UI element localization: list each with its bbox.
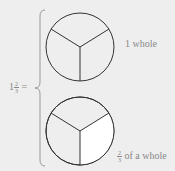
equals-sign: = xyxy=(22,81,28,92)
two-thirds-label: 23 of a whole xyxy=(117,150,167,163)
fraction: 23 xyxy=(14,81,19,94)
label-numerator: 2 xyxy=(117,150,122,157)
label-fraction: 23 xyxy=(117,150,122,163)
numerator: 2 xyxy=(14,81,19,88)
label-text: of a whole xyxy=(125,150,167,161)
curly-brace xyxy=(35,10,45,166)
two-thirds-circle xyxy=(46,97,114,165)
label-denominator: 3 xyxy=(118,157,121,163)
denominator: 3 xyxy=(15,88,18,94)
whole-label: 1 whole xyxy=(125,38,157,49)
whole-circle xyxy=(46,13,114,81)
mixed-number-label: 123 = xyxy=(9,81,27,94)
